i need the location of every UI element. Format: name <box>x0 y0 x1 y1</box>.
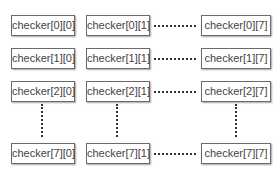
horizontal-ellipsis-row-0 <box>154 25 196 27</box>
cell-7-1: checker[7][1] <box>86 143 150 164</box>
horizontal-ellipsis-row-2 <box>154 91 196 93</box>
cell-2-1: checker[2][1] <box>86 81 150 102</box>
cell-2-7: checker[2][7] <box>201 81 271 102</box>
vertical-ellipsis-col-1 <box>116 104 118 137</box>
vertical-ellipsis-col-7 <box>235 104 237 137</box>
horizontal-ellipsis-row-7 <box>154 153 196 155</box>
cell-1-0: checker[1][0] <box>11 48 75 69</box>
cell-0-1: checker[0][1] <box>86 15 150 36</box>
cell-0-7: checker[0][7] <box>201 15 271 36</box>
cell-7-7: checker[7][7] <box>201 143 271 164</box>
vertical-ellipsis-col-0 <box>41 104 43 137</box>
cell-7-0: checker[7][0] <box>11 143 75 164</box>
cell-0-0: checker[0][0] <box>11 15 75 36</box>
horizontal-ellipsis-row-1 <box>154 58 196 60</box>
cell-1-7: checker[1][7] <box>201 48 271 69</box>
cell-2-0: checker[2][0] <box>11 81 75 102</box>
cell-1-1: checker[1][1] <box>86 48 150 69</box>
